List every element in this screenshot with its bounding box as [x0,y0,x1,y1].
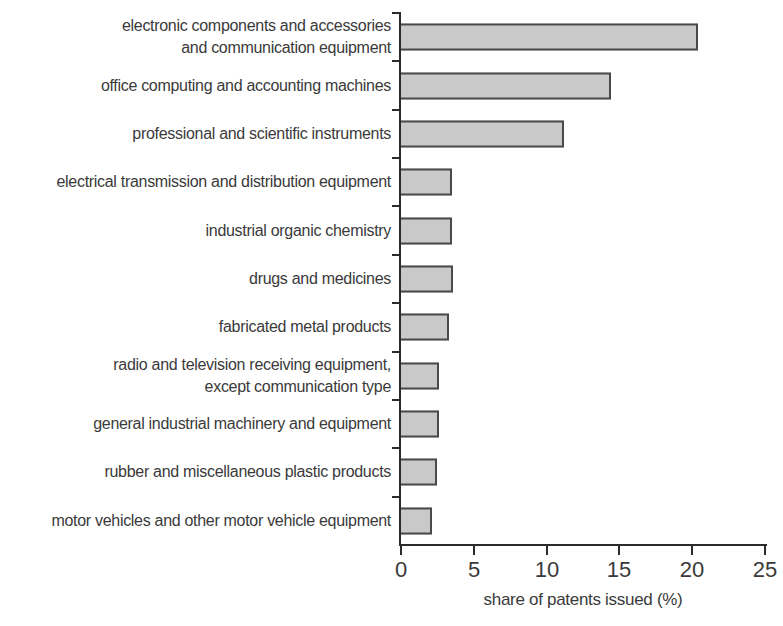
bar [399,120,564,147]
x-axis-tick [691,546,693,555]
category-label: fabricated metal products [0,316,391,338]
x-axis-tick [764,546,766,555]
category-label: drugs and medicines [0,268,391,290]
x-axis-tick-label: 20 [680,557,704,583]
category-label: radio and television receiving equipment… [0,354,391,398]
category-label: office computing and accounting machines [0,75,391,97]
bar [399,169,452,196]
y-axis-line [399,12,401,546]
x-axis-tick [400,546,402,555]
bar [399,314,449,341]
category-label: industrial organic chemistry [0,220,391,242]
x-axis-tick-label: 10 [535,557,559,583]
x-axis-line [399,544,767,546]
bar [399,362,439,389]
x-axis-title: share of patents issued (%) [484,590,683,610]
x-axis-tick-label: 15 [607,557,631,583]
category-label: rubber and miscellaneous plastic product… [0,461,391,483]
bar [399,266,453,293]
x-axis-tick-label: 0 [395,557,407,583]
patents-share-bar-chart: electronic components and accessories an… [0,0,783,626]
bar [399,217,452,244]
category-label: electronic components and accessories an… [0,15,391,59]
category-label: general industrial machinery and equipme… [0,413,391,435]
x-axis-tick [473,546,475,555]
bar [399,24,698,51]
bar [399,507,432,534]
bar [399,411,439,438]
bar [399,459,437,486]
x-axis-tick-label: 5 [468,557,480,583]
x-axis-tick [618,546,620,555]
category-label: motor vehicles and other motor vehicle e… [0,510,391,532]
category-label: professional and scientific instruments [0,123,391,145]
bar [399,72,611,99]
category-label: electrical transmission and distribution… [0,171,391,193]
x-axis-tick-label: 25 [753,557,777,583]
x-axis-tick [546,546,548,555]
